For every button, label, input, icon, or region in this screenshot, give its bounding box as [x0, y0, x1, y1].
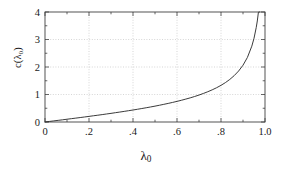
y-tick-label: 4	[35, 7, 41, 18]
y-tick-label: 1	[35, 89, 40, 100]
x-tick-label: .6	[173, 126, 181, 137]
x-tick-label: 1.0	[258, 126, 271, 137]
y-axis-title-base: c(λ₀)	[12, 47, 23, 68]
gridlines	[45, 12, 265, 122]
x-tick-label: .2	[85, 126, 93, 137]
figure-panel: 0.2.4.6.81.0 01234 c(λ₀) λ0	[0, 0, 292, 179]
x-axis-title: λ0	[0, 148, 292, 164]
x-tick-label: .4	[129, 126, 138, 137]
y-axis-title: c(λ₀)	[12, 34, 23, 82]
x-tick-label: .8	[217, 126, 225, 137]
y-tick-label: 3	[35, 34, 40, 45]
x-axis-tick-labels: 0.2.4.6.81.0	[42, 126, 271, 137]
y-tick-label: 2	[35, 62, 40, 73]
y-tick-label: 0	[35, 117, 40, 128]
x-axis-title-subscript: 0	[147, 154, 152, 164]
y-axis-tick-labels: 01234	[35, 7, 41, 128]
x-tick-label: 0	[42, 126, 47, 137]
